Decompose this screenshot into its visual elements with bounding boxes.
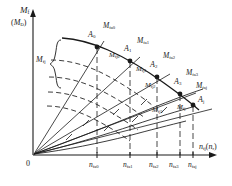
x-tick-label-nfaj: nfaj [188,161,196,169]
cross-curves-group [34,89,203,154]
y-axis-label-primary: Mf [20,6,29,15]
point-label-A3: A3 [174,78,181,87]
dashed-curve-3 [47,106,130,141]
moment-label-mfa3-sub: fa3 [192,72,198,77]
x-tick-label-nfa2: nfa2 [149,161,158,169]
moment-label-mfj1: Mfj1 [136,66,146,73]
x-tick-label-nfa1: nfa1 [123,161,132,169]
x-tick-label-nfa1-sub: fa1 [127,164,133,169]
moment-label-mfj-sub: fj [183,106,185,111]
x-axis-paren-open: ( [206,142,209,151]
point-label-A1: A1 [124,45,131,54]
x-tick-label-nfaj-sub: faj [192,164,197,169]
paren-close: ) [24,18,27,27]
moment-label-mfj0-sub: fj0 [115,54,120,59]
y-axis-label-primary-sub: f [28,9,30,15]
moment-label-mfaj: Mfaj [196,82,207,90]
bracket-label-mfj-sub: fj [43,59,46,64]
moment-label-mfa2: Mfa2 [163,52,175,60]
x-tick-label-nfa0-sub: fa0 [93,164,99,169]
moment-label-mfa2-sub: fa2 [169,55,175,60]
hatch-mark [113,109,119,115]
moment-label-mfa0: Mfa0 [103,22,115,30]
point-label-A3-sub: 3 [179,81,181,86]
point-A0 [95,45,100,50]
point-Aj [191,103,196,108]
moment-label-mfj2-sub: fj2 [151,84,156,89]
hatch-mark [83,120,89,126]
point-label-Aj: Aj [198,96,204,105]
moment-label-mfj: Mfj [177,104,185,111]
moment-label-mfa1-sub: fa1 [143,40,149,45]
dashed-curve-2 [48,92,138,130]
cross-curve-2 [34,121,186,154]
point-A2 [155,75,160,80]
point-A3 [178,92,183,97]
y-axis-label-secondary: (MD) [11,19,27,28]
moment-label-mfj2: Mfj2 [145,82,155,89]
moment-label-mfa1: Mfa1 [137,37,149,45]
point-label-A0-sub: 0 [93,34,95,39]
diagram-canvas [0,0,232,186]
point-label-A0: A0 [88,31,95,40]
point-label-A1-sub: 1 [129,48,131,53]
moment-label-mfj3: Mfj3 [152,107,162,114]
point-label-Aj-sub: j [203,99,204,104]
moment-label-mfj0: Mfj0 [109,52,119,59]
characteristic-curve-figure: Mf (MD) 0 nfj(nr) Mfj A0 A1 A2 A3 Aj Mfa… [0,0,232,186]
origin-label: 0 [26,160,30,168]
hatch-mark [141,99,147,105]
moment-label-mfj3-sub: fj3 [158,109,163,114]
x-tick-label-nfa3-sub: fa3 [173,164,179,169]
range-brace [50,40,61,88]
x-axis-arrow [209,152,217,158]
bracket-label-mfj: Mfj [36,56,46,65]
moment-label-mfj1-sub: fj1 [142,68,147,73]
moment-label-mfa3: Mfa3 [186,69,198,77]
x-tick-label-nfa2-sub: fa2 [153,164,159,169]
y-axis-arrow [30,9,36,17]
x-tick-label-nfa0: nfa0 [89,161,98,169]
point-label-A2: A2 [150,61,157,70]
paren-open: ( [11,18,14,27]
point-label-A2-sub: 2 [155,64,157,69]
point-A1 [128,59,133,64]
moment-label-mfaj-sub: faj [202,85,207,90]
x-axis-label: nfj(nr) [199,143,217,152]
moment-label-mfa0-sub: fa0 [109,25,115,30]
x-axis-paren-close: ) [214,142,217,151]
x-tick-label-nfa3: nfa3 [169,161,178,169]
cross-curve-0 [34,89,203,154]
